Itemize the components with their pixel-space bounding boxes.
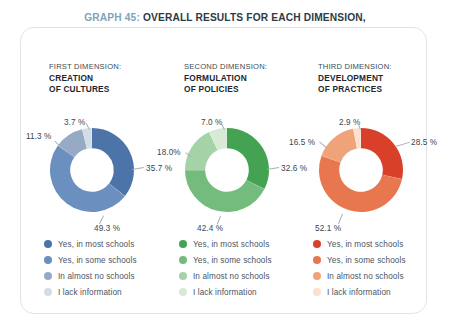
- legend-label: Yes, in most schools: [193, 240, 269, 249]
- segment-value-label: 28.5 %: [411, 138, 437, 147]
- dimension-kicker-3: THIRD DIMENSION:: [318, 61, 392, 73]
- donut-segment: [92, 128, 134, 196]
- dimension-name-1-line1: CREATION: [49, 73, 121, 85]
- legend-label: In almost no schools: [58, 272, 135, 281]
- legend-swatch-icon: [44, 240, 52, 248]
- donut-segment: [227, 128, 269, 189]
- legend-item: Yes, in most schools: [179, 236, 272, 252]
- segment-value-label: 3.7 %: [64, 118, 85, 127]
- graph-number: GRAPH 45:: [84, 12, 140, 23]
- donut-svg-1: [42, 120, 142, 220]
- segment-value-label: 7.0 %: [201, 118, 222, 127]
- legend-label: I lack information: [58, 288, 122, 297]
- legend-item: Yes, in some schools: [179, 252, 272, 268]
- donut-svg-3: [311, 120, 411, 220]
- legend-item: Yes, in most schools: [44, 236, 137, 252]
- dimension-name-1-line2: OF CULTURES: [49, 84, 121, 96]
- legend-swatch-icon: [179, 288, 187, 296]
- column-heading-2: SECOND DIMENSION: FORMULATION OF POLICIE…: [184, 61, 267, 96]
- dimension-name-2-line1: FORMULATION: [184, 73, 267, 85]
- donut-segment: [361, 128, 403, 179]
- donut-chart-3: 28.5 %52.1 %16.5 %2.9 %: [311, 120, 411, 220]
- legend-item: Yes, in some schools: [313, 252, 406, 268]
- segment-value-label: 18.0%: [157, 148, 181, 157]
- legend-label: Yes, in most schools: [58, 240, 134, 249]
- segment-value-label: 49.3 %: [94, 224, 120, 233]
- legend-swatch-icon: [44, 256, 52, 264]
- legend-label: Yes, in some schools: [327, 256, 406, 265]
- dimension-column-3: THIRD DIMENSION: DEVELOPMENT OF PRACTICE…: [293, 28, 428, 315]
- segment-value-label: 42.4 %: [197, 224, 223, 233]
- legend-item: I lack information: [313, 284, 406, 300]
- donut-chart-1: 35.7 %49.3 %11.3 %3.7 %: [42, 120, 142, 220]
- legend-swatch-icon: [179, 240, 187, 248]
- column-heading-1: FIRST DIMENSION: CREATION OF CULTURES: [49, 61, 121, 96]
- legend-label: Yes, in some schools: [58, 256, 137, 265]
- dimension-column-2: SECOND DIMENSION: FORMULATION OF POLICIE…: [159, 28, 294, 315]
- legend-label: Yes, in most schools: [327, 240, 403, 249]
- legend-swatch-icon: [313, 256, 321, 264]
- legend-swatch-icon: [44, 288, 52, 296]
- legend-label: In almost no schools: [193, 272, 270, 281]
- donut-svg-2: [177, 120, 277, 220]
- dimension-kicker-2: SECOND DIMENSION:: [184, 61, 267, 73]
- segment-value-label: 52.1 %: [315, 224, 341, 233]
- segment-value-label: 2.9 %: [339, 118, 360, 127]
- legend-label: Yes, in some schools: [193, 256, 272, 265]
- graph-card-root: GRAPH 45: OVERALL RESULTS FOR EACH DIMEN…: [0, 0, 450, 336]
- legend-label: In almost no schools: [327, 272, 404, 281]
- segment-value-label: 11.3 %: [26, 132, 51, 141]
- legend-3: Yes, in most schoolsYes, in some schools…: [313, 236, 406, 300]
- legend-item: Yes, in most schools: [313, 236, 406, 252]
- legend-item: I lack information: [179, 284, 272, 300]
- legend-2: Yes, in most schoolsYes, in some schools…: [179, 236, 272, 300]
- legend-item: In almost no schools: [313, 268, 406, 284]
- dimension-name-3-line1: DEVELOPMENT: [318, 73, 392, 85]
- title-line-1: GRAPH 45: OVERALL RESULTS FOR EACH DIMEN…: [0, 11, 450, 25]
- dimension-column-1: FIRST DIMENSION: CREATION OF CULTURES 35…: [24, 28, 159, 315]
- legend-1: Yes, in most schoolsYes, in some schools…: [44, 236, 137, 300]
- donut-segment: [322, 129, 357, 163]
- legend-swatch-icon: [313, 240, 321, 248]
- donut-chart-2: 32.6 %42.4 %18.0%7.0 %: [177, 120, 277, 220]
- legend-item: I lack information: [44, 284, 137, 300]
- legend-swatch-icon: [179, 256, 187, 264]
- dimension-kicker-1: FIRST DIMENSION:: [49, 61, 121, 73]
- legend-item: In almost no schools: [179, 268, 272, 284]
- title-line-1-rest: OVERALL RESULTS FOR EACH DIMENSION,: [140, 12, 366, 23]
- legend-label: I lack information: [193, 288, 257, 297]
- segment-value-label: 16.5 %: [289, 138, 315, 147]
- dimension-name-2-line2: OF POLICIES: [184, 84, 267, 96]
- legend-item: Yes, in some schools: [44, 252, 137, 268]
- legend-swatch-icon: [313, 288, 321, 296]
- legend-swatch-icon: [179, 272, 187, 280]
- legend-label: I lack information: [327, 288, 391, 297]
- chart-frame: FIRST DIMENSION: CREATION OF CULTURES 35…: [20, 27, 427, 314]
- legend-swatch-icon: [44, 272, 52, 280]
- column-heading-3: THIRD DIMENSION: DEVELOPMENT OF PRACTICE…: [318, 61, 392, 96]
- legend-item: In almost no schools: [44, 268, 137, 284]
- dimension-name-3-line2: OF PRACTICES: [318, 84, 392, 96]
- legend-swatch-icon: [313, 272, 321, 280]
